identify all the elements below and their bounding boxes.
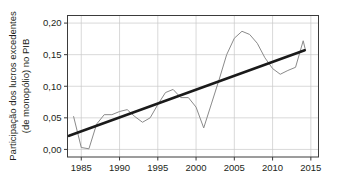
x-axis-tick-label: 2000 <box>185 162 206 173</box>
line-chart: 0,000,050,100,150,20 1985199019952000200… <box>0 0 344 195</box>
y-axis-tick-label: 0,10 <box>43 81 62 92</box>
chart-figure: 0,000,050,100,150,20 1985199019952000200… <box>0 0 344 195</box>
y-axis-tick-label: 0,20 <box>43 17 62 28</box>
x-axis-tick-label: 1990 <box>109 162 130 173</box>
x-axis-tick-label: 2015 <box>300 162 321 173</box>
x-axis-tick-label: 1995 <box>147 162 168 173</box>
y-axis-title-line-1: Participação dos lucros excedentes <box>7 11 18 161</box>
x-axis-tick-label: 2005 <box>224 162 245 173</box>
x-axis-tick-label: 2010 <box>262 162 283 173</box>
y-axis-tick-label: 0,05 <box>43 112 62 123</box>
x-axis-tick-label: 1985 <box>71 162 92 173</box>
y-axis-tick-label: 0,15 <box>43 49 62 60</box>
y-axis-title-line-2: (de monopólio) no PIB <box>20 39 31 134</box>
y-axis-tick-label: 0,00 <box>43 144 62 155</box>
